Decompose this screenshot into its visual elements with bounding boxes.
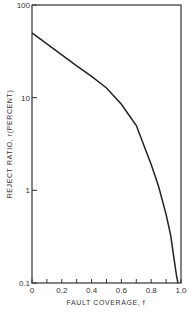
x-axis-ticks: 00.20.40.60.81.0: [30, 279, 187, 295]
y-axis-ticks: 0.1110100: [17, 1, 37, 288]
reject-ratio-curve: [32, 33, 178, 283]
x-axis-label: FAULT COVERAGE, f: [67, 299, 146, 306]
x-tick-label: 0.4: [86, 286, 98, 295]
y-axis-label: REJECT RATIO, r(PERCENT): [6, 90, 14, 199]
x-tick-label: 1.0: [175, 286, 187, 295]
x-tick-label: 0: [30, 286, 35, 295]
x-tick-label: 0.6: [116, 286, 128, 295]
plot-frame: [32, 5, 181, 283]
y-tick-label: 10: [21, 94, 30, 103]
y-tick-label: 100: [17, 1, 31, 10]
x-tick-label: 0.2: [56, 286, 68, 295]
y-tick-label: 1: [26, 186, 31, 195]
x-tick-label: 0.8: [146, 286, 158, 295]
reject-ratio-chart: 0.1110100 00.20.40.60.81.0 FAULT COVERAG…: [0, 0, 189, 315]
